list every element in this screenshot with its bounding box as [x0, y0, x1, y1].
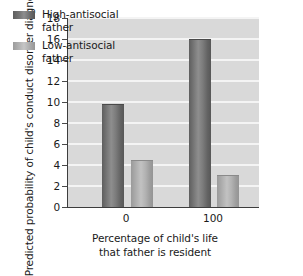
y-axis-tick-mark: [62, 102, 67, 103]
gridline: [68, 164, 259, 166]
y-axis-tick-label: 12: [38, 76, 60, 87]
legend-swatch-icon-high: [13, 11, 35, 19]
legend-swatch-icon-low: [13, 42, 35, 50]
legend-item-high-antisocial: High-antisocial father: [13, 8, 173, 33]
y-axis-tick-label: 4: [38, 160, 60, 171]
y-axis-tick-mark: [62, 144, 67, 145]
chart-legend: High-antisocial father Low-antisocial fa…: [13, 8, 173, 70]
bar-high-antisocial-100: [189, 39, 211, 207]
x-axis-tick-1: 100: [188, 213, 238, 224]
y-axis-tick-mark: [62, 186, 67, 187]
gridline: [68, 143, 259, 145]
y-axis-tick-mark: [62, 81, 67, 82]
bar-high-antisocial-0: [102, 104, 124, 207]
gridline: [68, 101, 259, 103]
y-axis-tick-mark: [62, 123, 67, 124]
legend-item-low-antisocial: Low-antisocial father: [13, 39, 173, 64]
y-axis-tick-mark: [62, 207, 67, 208]
gridline: [68, 80, 259, 82]
y-axis-tick-mark: [62, 18, 67, 19]
y-axis-tick-mark: [62, 165, 67, 166]
y-axis-tick-label: 0: [38, 202, 60, 213]
legend-label-low: Low-antisocial father: [42, 39, 115, 64]
bar-low-antisocial-0: [131, 160, 153, 207]
y-axis-tick-label: 8: [38, 118, 60, 129]
gridline: [68, 122, 259, 124]
bar-low-antisocial-100: [217, 175, 239, 207]
y-axis-tick-mark: [62, 60, 67, 61]
x-axis-label: Percentage of child's life that father i…: [50, 232, 260, 259]
y-axis-tick-mark: [62, 39, 67, 40]
y-axis-tick-label: 10: [38, 97, 60, 108]
x-axis-tick-0: 0: [101, 213, 151, 224]
y-axis-tick-label: 6: [38, 139, 60, 150]
legend-label-high: High-antisocial father: [42, 8, 118, 33]
y-axis-tick-label: 2: [38, 181, 60, 192]
